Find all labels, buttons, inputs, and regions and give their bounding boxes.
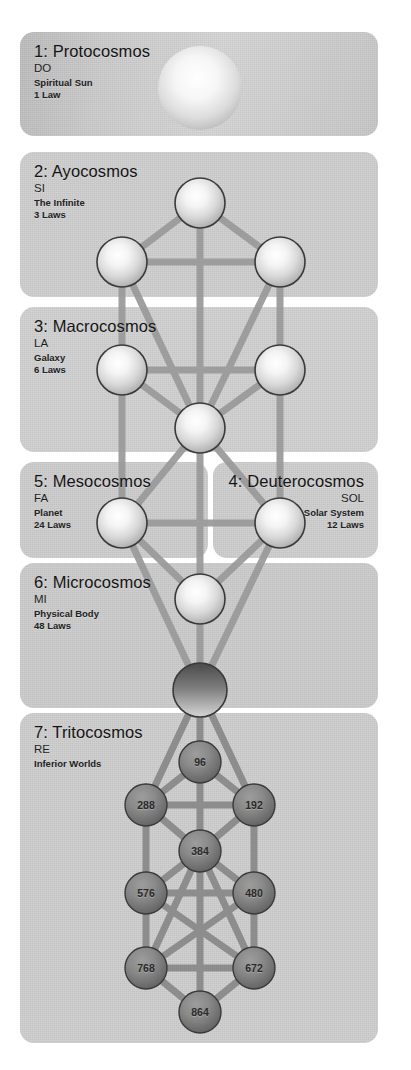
- panel-mesocosmos: 5: Mesocosmos FA Planet 24 Laws: [20, 462, 208, 558]
- panel-macrocosmos-sub1: Galaxy: [34, 352, 156, 363]
- panel-macrocosmos-text: 3: Macrocosmos LA Galaxy 6 Laws: [34, 317, 156, 375]
- panel-macrocosmos: 3: Macrocosmos LA Galaxy 6 Laws: [20, 307, 378, 452]
- panel-microcosmos: 6: Microcosmos MI Physical Body 48 Laws: [20, 563, 378, 708]
- panel-protocosmos-sub2: 1 Law: [34, 89, 150, 100]
- panel-ayocosmos-sub1: The Infinite: [34, 197, 138, 208]
- panel-microcosmos-sub2: 48 Laws: [34, 620, 151, 631]
- panel-mesocosmos-sub1: Planet: [34, 507, 151, 518]
- panel-protocosmos-text: 1: Protocosmos DO Spiritual Sun 1 Law: [34, 42, 150, 100]
- panel-macrocosmos-title: 3: Macrocosmos: [34, 317, 156, 336]
- panel-protocosmos-sub1: Spiritual Sun: [34, 77, 150, 88]
- panel-microcosmos-text: 6: Microcosmos MI Physical Body 48 Laws: [34, 573, 151, 631]
- panel-protocosmos: 1: Protocosmos DO Spiritual Sun 1 Law: [20, 32, 378, 136]
- panel-deuterocosmos-title: 4: Deuterocosmos: [229, 472, 365, 491]
- panel-tritocosmos-sub1: Inferior Worlds: [34, 758, 143, 769]
- panel-mesocosmos-note: FA: [34, 492, 151, 506]
- panel-microcosmos-title: 6: Microcosmos: [34, 573, 151, 592]
- panel-tritocosmos-text: 7: Tritocosmos RE Inferior Worlds: [34, 723, 143, 769]
- panel-deuterocosmos: 4: Deuterocosmos SOL Solar System 12 Law…: [213, 462, 378, 558]
- panel-deuterocosmos-note: SOL: [229, 492, 365, 506]
- panel-tritocosmos-note: RE: [34, 743, 143, 757]
- cosmos-diagram: 1: Protocosmos DO Spiritual Sun 1 Law 2:…: [0, 0, 411, 1070]
- panel-ayocosmos-note: SI: [34, 182, 138, 196]
- panel-tritocosmos: 7: Tritocosmos RE Inferior Worlds: [20, 713, 378, 1043]
- panel-mesocosmos-sub2: 24 Laws: [34, 519, 151, 530]
- panel-mesocosmos-text: 5: Mesocosmos FA Planet 24 Laws: [34, 472, 151, 530]
- panel-microcosmos-sub1: Physical Body: [34, 608, 151, 619]
- panel-deuterocosmos-text: 4: Deuterocosmos SOL Solar System 12 Law…: [229, 472, 365, 530]
- panel-mesocosmos-title: 5: Mesocosmos: [34, 472, 151, 491]
- panel-ayocosmos-sub2: 3 Laws: [34, 209, 138, 220]
- panel-ayocosmos: 2: Ayocosmos SI The Infinite 3 Laws: [20, 152, 378, 297]
- panel-ayocosmos-text: 2: Ayocosmos SI The Infinite 3 Laws: [34, 162, 138, 220]
- panel-deuterocosmos-sub2: 12 Laws: [229, 519, 365, 530]
- panel-macrocosmos-sub2: 6 Laws: [34, 364, 156, 375]
- panel-macrocosmos-note: LA: [34, 337, 156, 351]
- panel-protocosmos-title: 1: Protocosmos: [34, 42, 150, 61]
- panel-protocosmos-note: DO: [34, 62, 150, 76]
- panel-microcosmos-note: MI: [34, 593, 151, 607]
- panel-ayocosmos-title: 2: Ayocosmos: [34, 162, 138, 181]
- panel-tritocosmos-title: 7: Tritocosmos: [34, 723, 143, 742]
- panel-deuterocosmos-sub1: Solar System: [229, 507, 365, 518]
